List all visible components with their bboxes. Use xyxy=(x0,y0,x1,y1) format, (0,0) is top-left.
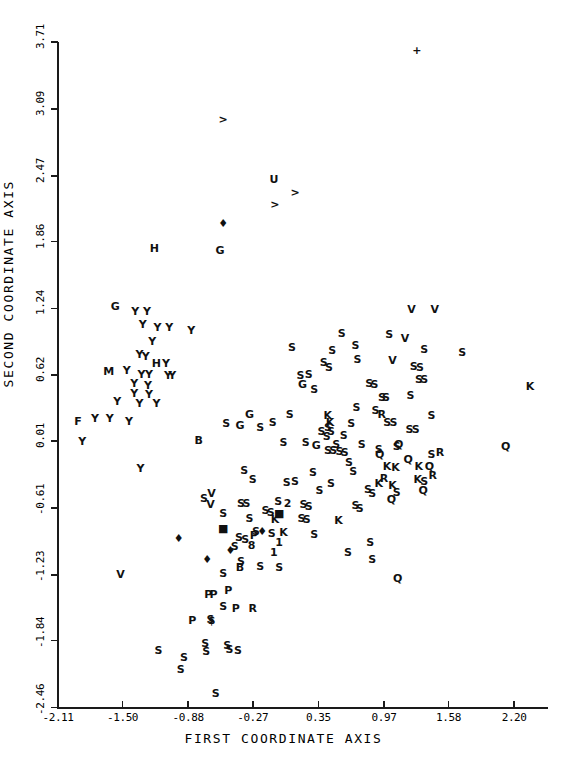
y-tick-label: 2.47 xyxy=(35,158,46,183)
data-point-label: Q xyxy=(404,454,413,465)
data-point-label: Y xyxy=(153,321,161,332)
y-tick-label: 0.01 xyxy=(35,423,46,448)
y-tick-label: 0.62 xyxy=(35,357,46,382)
x-axis-line xyxy=(57,707,548,709)
data-point-label: U xyxy=(269,173,278,184)
data-point-label: V xyxy=(116,568,125,579)
data-point-label: R xyxy=(436,446,444,457)
data-point-label: S xyxy=(315,484,323,495)
x-tick-label: -2.11 xyxy=(42,712,73,723)
data-point-label: F xyxy=(74,415,82,426)
y-tick-mark xyxy=(51,41,58,43)
data-point-label: ♦ xyxy=(257,525,267,536)
data-point-label: S xyxy=(328,345,336,356)
x-tick-mark xyxy=(318,701,320,708)
data-point-label: S xyxy=(352,401,360,412)
y-tick-mark xyxy=(51,108,58,110)
data-point-label: Y xyxy=(168,370,176,381)
data-point-label: S xyxy=(412,424,420,435)
data-point-label: G xyxy=(215,245,224,256)
data-point-label: Y xyxy=(152,398,160,409)
data-point-label: S xyxy=(219,567,227,578)
data-point-label: M xyxy=(103,365,114,376)
data-point-label: Q xyxy=(501,441,510,452)
data-point-label: 1 xyxy=(270,547,278,558)
x-tick-label: 1.58 xyxy=(436,712,461,723)
data-point-label: H xyxy=(152,358,161,369)
data-point-label: S xyxy=(393,441,401,452)
data-point-label: S xyxy=(416,361,424,372)
data-point-label: S xyxy=(372,404,380,415)
data-point-label: V xyxy=(430,304,439,315)
x-tick-mark xyxy=(122,701,124,708)
data-point-label: Q xyxy=(418,484,427,495)
x-tick-label: -0.88 xyxy=(173,712,204,723)
data-point-label: S xyxy=(420,373,428,384)
data-point-label: S xyxy=(347,417,355,428)
data-point-label: > xyxy=(218,113,227,124)
data-point-label: S xyxy=(370,378,378,389)
y-axis-title: SECOND COORDINATE AXIS xyxy=(2,180,15,387)
data-point-label: K xyxy=(271,513,280,524)
data-point-label: S xyxy=(428,410,436,421)
data-point-label: S xyxy=(256,561,264,572)
y-tick-mark xyxy=(51,308,58,310)
data-point-label: S xyxy=(242,497,250,508)
x-tick-label: 2.20 xyxy=(502,712,527,723)
data-point-label: S xyxy=(155,645,163,656)
y-tick-label: -0.61 xyxy=(35,484,46,515)
data-point-label: S xyxy=(309,467,317,478)
x-axis-title: FIRST COORDINATE AXIS xyxy=(0,732,567,745)
data-point-label: ♦ xyxy=(226,545,236,556)
data-point-label: P xyxy=(224,584,232,595)
data-point-label: S xyxy=(275,562,283,573)
data-point-label: S xyxy=(338,328,346,339)
x-tick-mark xyxy=(57,701,59,708)
data-point-label: V xyxy=(407,304,416,315)
data-point-label: ♦ xyxy=(202,553,212,564)
y-tick-mark xyxy=(51,241,58,243)
data-point-label: V xyxy=(206,498,215,509)
data-point-label: S xyxy=(356,502,364,513)
data-point-label: S xyxy=(177,663,185,674)
data-point-label: S xyxy=(366,537,374,548)
x-tick-mark xyxy=(448,701,450,708)
data-point-label: G xyxy=(245,409,254,420)
data-point-label: P xyxy=(232,603,240,614)
data-point-label: ■ xyxy=(218,523,228,534)
data-point-label: S xyxy=(222,417,230,428)
data-point-label: S xyxy=(219,508,227,519)
x-tick-label: -1.50 xyxy=(107,712,138,723)
data-point-label: S xyxy=(349,466,357,477)
data-point-label: S xyxy=(225,644,233,655)
data-point-label: Y xyxy=(143,305,151,316)
data-point-label: G xyxy=(111,301,120,312)
data-point-label: S xyxy=(344,547,352,558)
data-point-label: S xyxy=(279,437,287,448)
data-point-label: S xyxy=(202,646,210,657)
data-point-label: S xyxy=(325,361,333,372)
data-point-label: Y xyxy=(187,324,195,335)
data-point-label: Q xyxy=(393,573,402,584)
data-point-label: S xyxy=(283,477,291,488)
data-point-label: Y xyxy=(137,463,145,474)
data-point-label: > xyxy=(290,186,299,197)
data-point-label: S xyxy=(291,475,299,486)
data-point-label: S xyxy=(234,645,242,656)
data-point-label: 2 xyxy=(284,497,292,508)
data-point-label: S xyxy=(256,422,264,433)
data-point-label: S xyxy=(375,443,383,454)
data-point-label: Y xyxy=(136,398,144,409)
y-tick-mark xyxy=(51,175,58,177)
data-point-label: Y xyxy=(139,318,147,329)
data-point-label: S xyxy=(249,473,257,484)
data-point-label: R xyxy=(248,603,256,614)
data-point-label: S xyxy=(180,651,188,662)
y-tick-label: 3.71 xyxy=(35,24,46,49)
data-point-label: H xyxy=(150,243,159,254)
data-point-label: S xyxy=(286,409,294,420)
data-point-label: K xyxy=(391,461,400,472)
data-point-label: S xyxy=(240,465,248,476)
data-point-label: G xyxy=(312,440,321,451)
data-point-label: S xyxy=(274,496,282,507)
